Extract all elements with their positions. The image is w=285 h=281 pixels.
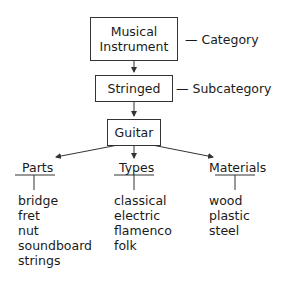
list-item: flamenco [114, 223, 172, 238]
subcategory-node: Stringed [95, 75, 173, 102]
list-item: wood [209, 193, 250, 208]
list-item: folk [114, 238, 172, 253]
list-item: electric [114, 208, 172, 223]
arrow-item-to-materials [152, 145, 213, 157]
parts-list: bridge fret nut soundboard strings [18, 193, 92, 268]
list-item: fret [18, 208, 92, 223]
item-node-label: Guitar [115, 125, 154, 140]
types-list: classical electric flamenco folk [114, 193, 172, 253]
item-node: Guitar [107, 119, 161, 146]
subcategory-node-label: Stringed [108, 81, 161, 96]
list-item: classical [114, 193, 172, 208]
list-item: steel [209, 223, 250, 238]
category-node-line1: Musical [111, 24, 158, 39]
parts-heading: Parts [22, 160, 53, 175]
materials-heading: Materials [209, 160, 266, 175]
category-node: Musical Instrument [90, 17, 178, 61]
category-annotation: — Category [185, 32, 259, 47]
materials-list: wood plastic steel [209, 193, 250, 238]
arrow-item-to-parts [56, 145, 118, 157]
list-item: strings [18, 253, 92, 268]
list-item: soundboard [18, 238, 92, 253]
list-item: nut [18, 223, 92, 238]
list-item: bridge [18, 193, 92, 208]
category-node-line2: Instrument [100, 39, 169, 54]
list-item: plastic [209, 208, 250, 223]
types-heading: Types [119, 160, 154, 175]
subcategory-annotation: — Subcategory [176, 81, 272, 96]
